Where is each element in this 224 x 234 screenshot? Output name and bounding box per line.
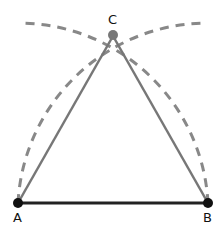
triangle-construction-diagram: A B C [0, 0, 224, 234]
side-bc [113, 36, 208, 203]
label-c: C [108, 12, 117, 27]
point-a [13, 198, 23, 208]
label-b: B [203, 210, 212, 225]
point-b [203, 198, 213, 208]
side-ac [18, 36, 113, 203]
construction-arc-from-a [19, 23, 208, 203]
construction-arc-from-b [18, 23, 207, 203]
label-a: A [13, 210, 22, 225]
point-c [108, 30, 118, 40]
